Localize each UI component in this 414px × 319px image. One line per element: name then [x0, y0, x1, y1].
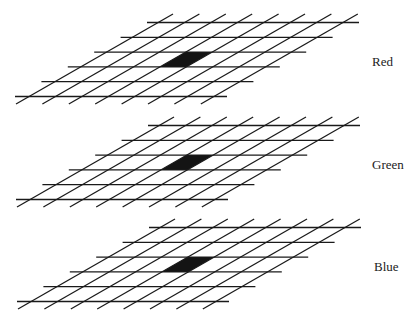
highlighted-pixel	[161, 155, 213, 170]
grid-column-line	[124, 219, 281, 309]
grid-column-line	[70, 117, 227, 207]
grid-column-line	[95, 14, 252, 104]
blue-channel-label: Blue	[374, 260, 399, 273]
rgb-channel-planes-diagram	[0, 0, 414, 319]
grid-column-line	[203, 219, 360, 309]
grid-column-line	[201, 14, 358, 104]
grid-column-line	[123, 117, 280, 207]
grid-column-line	[122, 14, 279, 104]
grid-column-line	[69, 14, 226, 104]
grid-column-line	[97, 219, 254, 309]
blue-channel-grid	[17, 219, 361, 309]
highlighted-pixel	[160, 52, 212, 67]
highlighted-pixel	[162, 257, 214, 272]
grid-column-line	[149, 117, 306, 207]
grid-column-line	[96, 117, 253, 207]
red-channel-grid	[15, 14, 359, 104]
grid-column-line	[148, 14, 305, 104]
grid-column-line	[202, 117, 359, 207]
grid-column-line	[18, 219, 175, 309]
green-channel-grid	[16, 117, 360, 207]
grid-column-line	[150, 219, 307, 309]
grid-column-line	[17, 117, 174, 207]
red-channel-label: Red	[372, 55, 393, 68]
grid-column-line	[16, 14, 173, 104]
grid-column-line	[71, 219, 228, 309]
green-channel-label: Green	[372, 158, 404, 171]
